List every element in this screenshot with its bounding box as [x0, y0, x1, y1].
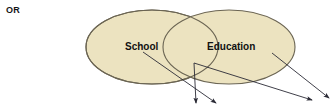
- set-label-education: Education: [207, 41, 255, 52]
- venn-diagram-figure: OR School Education: [0, 0, 332, 107]
- arrow-education-to-instance: [272, 53, 329, 98]
- set-label-school: School: [125, 41, 159, 52]
- venn-diagram-canvas: School Education: [0, 0, 332, 107]
